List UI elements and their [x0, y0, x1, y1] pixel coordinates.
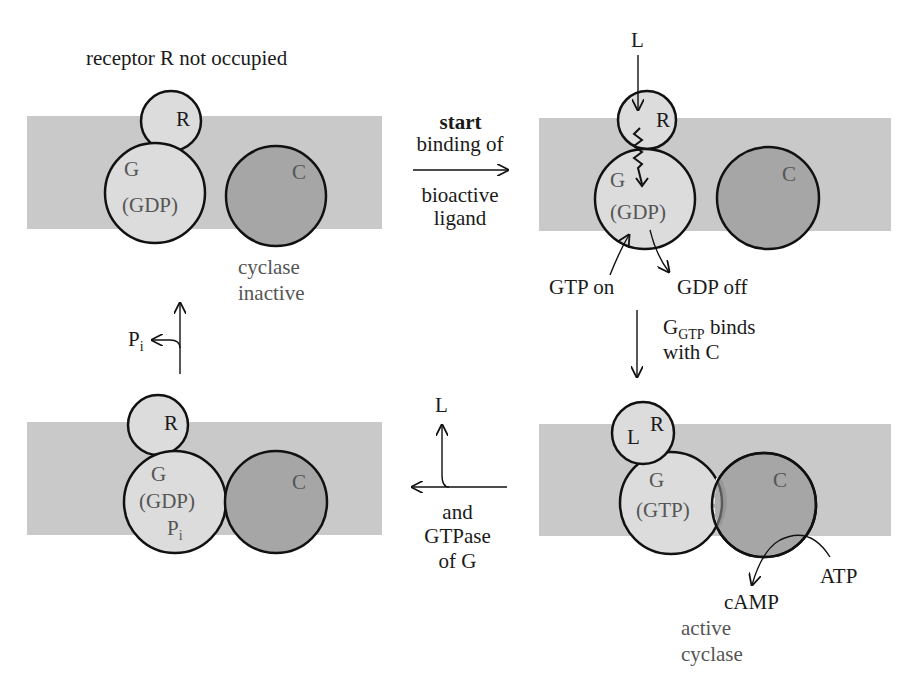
cyclase-circle — [717, 147, 819, 249]
pi-release-label: Pi — [128, 327, 144, 359]
g-state-label: (GTP) — [636, 498, 690, 522]
start-line-2: bioactive — [405, 183, 515, 207]
receptor-label: R — [164, 411, 178, 435]
camp-label: cAMP — [724, 590, 779, 614]
ligand-release-arrow — [442, 425, 449, 487]
release-line-2: GTPase — [405, 524, 510, 548]
membrane-top-right — [539, 118, 891, 231]
gdp-off-label: GDP off — [677, 275, 748, 299]
g-binds-line-2: with C — [663, 340, 720, 364]
active-caption-2: cyclase — [681, 642, 743, 666]
g-protein-label: G — [610, 168, 625, 192]
receptor-label: R — [176, 107, 190, 131]
cyclase-label: C — [292, 470, 306, 494]
g-state-label: (GDP) — [122, 193, 178, 217]
released-ligand-label: L — [435, 393, 448, 417]
panel-title-top-left: receptor R not occupied — [86, 46, 287, 70]
g-protein-circle — [595, 149, 695, 249]
receptor-circle — [128, 395, 188, 455]
g-state-label: (GDP) — [139, 489, 195, 513]
cyclase-caption-2: inactive — [238, 281, 304, 305]
start-label: start — [413, 110, 508, 134]
g-protein-label: G — [151, 462, 166, 486]
receptor-label: R — [656, 108, 670, 132]
cyclase-caption-1: cyclase — [238, 255, 300, 279]
g-protein-label: G — [124, 157, 139, 181]
cyclase-label: C — [773, 468, 787, 492]
g-protein-label: G — [649, 468, 664, 492]
cyclase-circle — [226, 146, 326, 246]
active-caption-1: active — [681, 616, 731, 640]
release-line-3: of G — [405, 549, 510, 573]
cyclase-label: C — [782, 162, 796, 186]
membrane-top-left — [27, 116, 382, 229]
g-state-label: (GDP) — [610, 200, 666, 224]
start-line-3: ligand — [405, 206, 515, 230]
atp-label: ATP — [820, 564, 857, 588]
receptor-circle — [612, 402, 674, 464]
ligand-label: L — [631, 28, 644, 52]
cyclase-label: C — [292, 160, 306, 184]
release-line-1: and — [405, 500, 510, 524]
bound-ligand-label: L — [627, 425, 640, 449]
pi-release-arrow — [152, 340, 180, 348]
pi-label: Pi — [167, 516, 183, 548]
gtp-on-label: GTP on — [549, 275, 614, 299]
receptor-label: R — [650, 412, 664, 436]
cyclase-circle — [225, 451, 327, 553]
start-line-1: binding of — [405, 132, 515, 156]
